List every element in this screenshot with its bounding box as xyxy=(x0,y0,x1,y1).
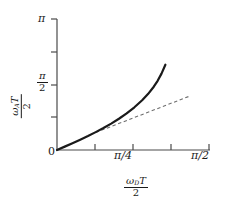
x-tick-label-pi-over-4: π/4 xyxy=(114,150,132,161)
y-tick-pi-half-numerator: π xyxy=(37,71,48,83)
x-axis-title: ωDT 2 xyxy=(100,176,172,198)
y-tick-pi-half-denominator: 2 xyxy=(37,83,48,94)
origin-label-zero: 0 xyxy=(48,146,55,157)
asymptote-dashed-line xyxy=(96,96,191,133)
y-axis-title: ωAT 2 xyxy=(10,76,32,136)
x-tick-label-pi-over-2: π/2 xyxy=(191,150,209,161)
data-curve-solid xyxy=(57,65,165,150)
y-tick-label-pi-over-2: π 2 xyxy=(37,71,48,93)
y-tick-label-pi: π xyxy=(38,13,45,24)
x-axis-title-denominator: 2 xyxy=(124,188,148,199)
figure-container: π π 2 0 π/4 π/2 ωAT 2 ωDT 2 xyxy=(0,0,235,209)
x-axis-T-symbol: T xyxy=(139,175,146,186)
y-axis-T-symbol: T xyxy=(9,97,20,104)
y-axis-omega-symbol: ω xyxy=(9,108,20,116)
y-axis-ticks xyxy=(51,19,57,117)
y-axis-omega-subscript: A xyxy=(13,103,20,107)
y-axis-title-denominator: 2 xyxy=(22,95,33,118)
